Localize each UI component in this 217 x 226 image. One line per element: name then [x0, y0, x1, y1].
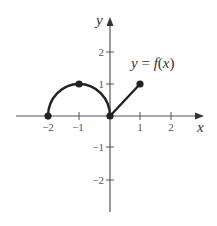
function-curve	[44, 80, 143, 119]
x-tick-label: −2	[42, 121, 54, 133]
point-marker	[75, 80, 82, 87]
x-tick-label: 1	[137, 121, 143, 133]
point-marker	[44, 112, 51, 119]
line-segment	[110, 84, 140, 116]
y-tick-label: 2	[99, 46, 105, 58]
function-label: y = f(x)	[129, 55, 174, 72]
y-axis-label: y	[94, 12, 103, 28]
point-marker	[136, 80, 143, 87]
x-tick-label: −1	[72, 121, 84, 133]
x-tick-label: 2	[168, 121, 174, 133]
y-tick-label: −1	[92, 141, 104, 153]
function-graph: −2 −1 1 2 x 2 1 −1 −2 y y = f(x)	[0, 0, 217, 226]
y-tick-label: −2	[92, 174, 104, 186]
point-marker	[106, 112, 113, 119]
y-tick-label: 1	[99, 78, 105, 90]
y-axis-arrow-icon	[107, 17, 114, 26]
x-axis-label: x	[196, 119, 204, 135]
